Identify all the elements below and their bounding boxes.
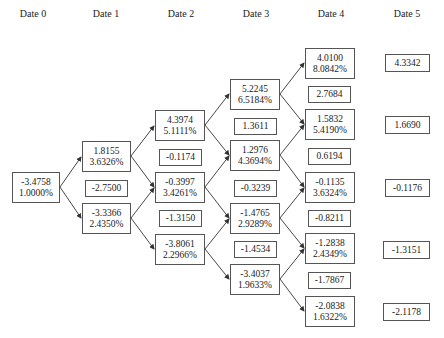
- node-rate: 5.4190%: [313, 125, 347, 136]
- node-rate: 1.0000%: [19, 188, 53, 199]
- node-rate: 1.6322%: [313, 312, 347, 323]
- node-value: -0.8211: [315, 213, 344, 224]
- node-value: -0.1174: [166, 152, 195, 163]
- node-value: -1.4765: [240, 208, 269, 219]
- node-rate: 3.4261%: [163, 188, 197, 199]
- node-value: -0.1176: [393, 183, 422, 194]
- node-value: -3.4037: [240, 269, 269, 280]
- node-rate: 4.3694%: [238, 156, 272, 167]
- node-value: 1.3611: [243, 121, 269, 132]
- node-date1-down: -3.3366 2.4350%: [82, 203, 131, 234]
- node-rate: 6.5184%: [238, 95, 272, 106]
- node-rate: 2.4349%: [313, 249, 347, 260]
- node-rate: 3.6324%: [313, 188, 347, 199]
- node-date4-c: -0.1135 3.6324%: [305, 172, 355, 203]
- node-value: -2.7500: [92, 183, 121, 194]
- node-value: -2.1178: [392, 307, 421, 318]
- node-date3-ab: 1.3611: [234, 118, 277, 135]
- node-date2-ab: -0.1174: [159, 149, 202, 166]
- node-date2-b: -0.3997 3.4261%: [155, 172, 205, 203]
- node-value: -0.1135: [316, 177, 345, 188]
- node-date5-b: 1.6690: [385, 116, 430, 134]
- node-date3-b: 1.2976 4.3694%: [230, 140, 280, 171]
- node-date4-d: -1.2838 2.4349%: [305, 233, 355, 264]
- node-date2-bc: -1.3150: [159, 210, 202, 227]
- node-value: 1.6690: [394, 120, 420, 131]
- node-date4-bc: 0.6194: [308, 148, 351, 165]
- node-date4-e: -2.0838 1.6322%: [305, 296, 355, 327]
- node-date3-cd: -1.4534: [234, 241, 277, 258]
- node-value: 4.3974: [167, 115, 193, 126]
- node-date5-e: -2.1178: [383, 303, 430, 321]
- node-value: -1.2838: [315, 238, 344, 249]
- node-value: -1.3151: [392, 245, 421, 256]
- node-date3-d: -3.4037 1.9633%: [230, 264, 280, 295]
- node-date5-a: 4.3342: [385, 54, 430, 72]
- node-date4-b: 1.5832 5.4190%: [305, 109, 355, 140]
- node-value: -3.8061: [165, 239, 194, 250]
- node-rate: 3.6326%: [89, 157, 123, 168]
- node-value: -0.3239: [241, 183, 270, 194]
- node-rate: 8.0842%: [313, 64, 347, 75]
- node-rate: 2.9289%: [238, 219, 272, 230]
- node-value: -3.3366: [92, 208, 121, 219]
- node-value: -1.3150: [166, 213, 195, 224]
- node-value: 4.3342: [394, 58, 420, 69]
- node-value: -3.4758: [21, 177, 50, 188]
- node-date1-up: 1.8155 3.6326%: [82, 141, 131, 172]
- node-value: 5.2245: [242, 84, 268, 95]
- node-value: 1.2976: [242, 145, 268, 156]
- node-rate: 5.1111%: [164, 126, 197, 137]
- node-date3-a: 5.2245 6.5184%: [230, 79, 280, 110]
- node-date5-c: -0.1176: [385, 179, 430, 197]
- node-date5-d: -1.3151: [383, 241, 430, 259]
- node-rate: 2.2966%: [163, 250, 197, 261]
- node-rate: 1.9633%: [238, 280, 272, 291]
- node-date3-c: -1.4765 2.9289%: [230, 203, 280, 234]
- node-date2-a: 4.3974 5.1111%: [155, 110, 205, 141]
- node-value: 1.8155: [93, 146, 119, 157]
- node-value: -1.7867: [315, 275, 344, 286]
- node-date4-de: -1.7867: [308, 272, 351, 289]
- node-date2-c: -3.8061 2.2966%: [155, 234, 205, 265]
- node-date3-bc: -0.3239: [234, 180, 277, 197]
- node-value: -2.0838: [315, 301, 344, 312]
- node-date0: -3.4758 1.0000%: [12, 172, 60, 203]
- node-value: 1.5832: [317, 114, 343, 125]
- node-value: 4.0100: [317, 53, 343, 64]
- node-value: 0.6194: [316, 151, 342, 162]
- tree-edges: [0, 0, 444, 338]
- node-date4-ab: 2.7684: [308, 86, 351, 103]
- node-rate: 2.4350%: [89, 219, 123, 230]
- node-value: -0.3997: [165, 177, 194, 188]
- node-date4-a: 4.0100 8.0842%: [305, 48, 355, 79]
- node-value: 2.7684: [316, 89, 342, 100]
- node-date4-cd: -0.8211: [308, 210, 351, 227]
- node-value: -1.4534: [241, 244, 270, 255]
- node-date1-mid: -2.7500: [85, 180, 128, 197]
